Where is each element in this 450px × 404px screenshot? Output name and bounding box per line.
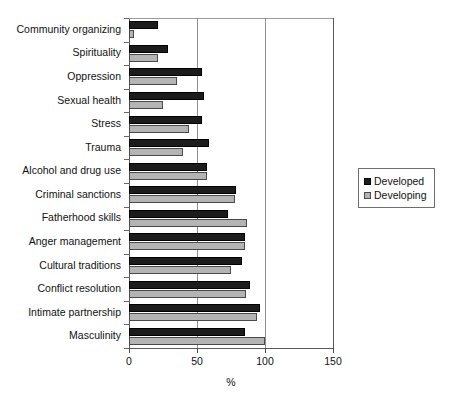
- legend-item-developing: Developing: [364, 188, 427, 202]
- category-tick: [124, 18, 129, 19]
- x-tick-label: 150: [313, 355, 353, 367]
- category-label: Alcohol and drug use: [22, 164, 121, 176]
- category-label: Spirituality: [73, 46, 121, 58]
- category-tick: [124, 301, 129, 302]
- category-label: Anger management: [29, 235, 121, 247]
- bar-developed: [129, 21, 158, 29]
- legend-swatch-developing-icon: [364, 192, 371, 199]
- category-label: Conflict resolution: [38, 282, 121, 294]
- category-tick: [124, 89, 129, 90]
- bar-developed: [129, 328, 245, 336]
- category-axis: Community organizingSpiritualityOppressi…: [0, 18, 126, 348]
- bar-developed: [129, 281, 250, 289]
- category-tick: [124, 183, 129, 184]
- bar-developing: [129, 77, 177, 85]
- category-label: Stress: [91, 117, 121, 129]
- bar-developing: [129, 101, 163, 109]
- bar-developed: [129, 233, 245, 241]
- x-tick-50: [197, 348, 198, 353]
- bar-developed: [129, 304, 260, 312]
- legend-item-developed: Developed: [364, 174, 427, 188]
- bar-developing: [129, 337, 265, 345]
- chart-legend: Developed Developing: [358, 168, 435, 208]
- category-label: Oppression: [67, 70, 121, 82]
- category-label: Community organizing: [17, 23, 121, 35]
- bar-developed: [129, 116, 202, 124]
- bar-developed: [129, 139, 209, 147]
- bar-developing: [129, 219, 247, 227]
- x-tick-100: [265, 348, 266, 353]
- category-tick: [124, 65, 129, 66]
- category-tick: [124, 254, 129, 255]
- bar-developed: [129, 257, 242, 265]
- category-tick: [124, 136, 129, 137]
- bar-developing: [129, 266, 231, 274]
- category-label: Cultural traditions: [39, 259, 121, 271]
- category-label: Criminal sanctions: [35, 188, 121, 200]
- x-tick-label: 50: [177, 355, 217, 367]
- x-tick-0: [129, 348, 130, 353]
- plot-frame-right: [333, 18, 334, 348]
- category-tick: [124, 112, 129, 113]
- bar-developed: [129, 186, 236, 194]
- bar-developing: [129, 30, 134, 38]
- legend-label-developed: Developed: [374, 175, 424, 187]
- category-tick: [124, 207, 129, 208]
- category-tick: [124, 159, 129, 160]
- bar-developing: [129, 242, 245, 250]
- category-tick: [124, 42, 129, 43]
- gridline-100: [265, 18, 266, 348]
- category-label: Trauma: [85, 141, 121, 153]
- category-label: Sexual health: [57, 94, 121, 106]
- bar-developed: [129, 45, 168, 53]
- x-tick-150: [333, 348, 334, 353]
- category-tick: [124, 324, 129, 325]
- bar-developing: [129, 148, 183, 156]
- category-label: Masculinity: [69, 329, 121, 341]
- x-axis-line: [129, 348, 334, 349]
- bar-developed: [129, 92, 204, 100]
- legend-swatch-developed-icon: [364, 178, 371, 185]
- x-tick-label: 100: [245, 355, 285, 367]
- bar-developing: [129, 313, 257, 321]
- bar-developing: [129, 125, 189, 133]
- bar-developing: [129, 195, 235, 203]
- bar-developing: [129, 290, 246, 298]
- plot-frame-top: [129, 18, 333, 19]
- category-label: Intimate partnership: [28, 306, 121, 318]
- bar-developed: [129, 210, 228, 218]
- bar-developed: [129, 68, 202, 76]
- category-tick: [124, 348, 129, 349]
- category-tick: [124, 230, 129, 231]
- x-axis-title: %: [129, 376, 333, 388]
- bar-chart: Community organizingSpiritualityOppressi…: [0, 0, 450, 404]
- bar-developed: [129, 163, 207, 171]
- category-label: Fatherhood skills: [42, 211, 121, 223]
- legend-label-developing: Developing: [374, 189, 427, 201]
- category-tick: [124, 277, 129, 278]
- bar-developing: [129, 172, 207, 180]
- bar-developing: [129, 54, 158, 62]
- x-tick-label: 0: [109, 355, 149, 367]
